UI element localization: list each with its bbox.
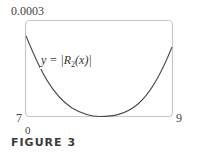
x-axis-min-label: 7 [16,111,22,126]
curve-abs-r2 [26,36,172,117]
equation-arg: (x)| [75,53,92,67]
x-axis-max-label: 9 [176,111,182,126]
equation-func: R [64,53,71,67]
equation-prefix: y = | [41,53,64,67]
y-axis-min-label: 0 [25,124,31,136]
equation-label: y = |R2(x)| [40,53,93,69]
figure-caption: FIGURE 3 [11,136,76,149]
